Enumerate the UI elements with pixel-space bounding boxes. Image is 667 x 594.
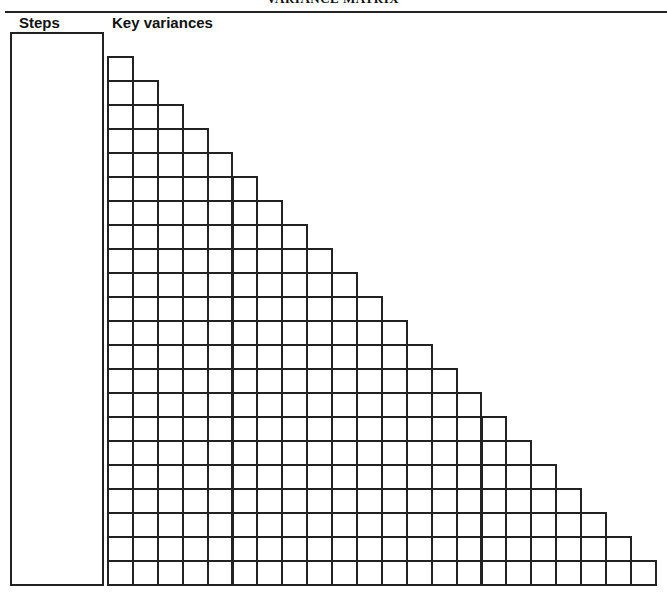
matrix-cell xyxy=(132,176,159,202)
matrix-cell xyxy=(256,512,283,538)
matrix-cell xyxy=(157,176,184,202)
matrix-cell xyxy=(207,488,234,514)
page-title: VARIANCE MATRIX xyxy=(0,0,666,7)
matrix-cell xyxy=(182,296,209,322)
matrix-cell xyxy=(157,416,184,442)
matrix-cell xyxy=(306,320,333,346)
matrix-cell xyxy=(132,440,159,466)
matrix-cell xyxy=(132,152,159,178)
matrix-cell xyxy=(505,512,532,538)
matrix-cell xyxy=(331,440,358,466)
matrix-cell xyxy=(456,464,483,490)
matrix-cell xyxy=(281,320,308,346)
matrix-cell xyxy=(132,128,159,154)
matrix-cell xyxy=(406,464,433,490)
matrix-cell xyxy=(431,512,458,538)
matrix-cell xyxy=(232,392,259,418)
matrix-cell xyxy=(555,512,582,538)
matrix-cell xyxy=(356,440,383,466)
matrix-cell xyxy=(530,512,557,538)
steps-header: Steps xyxy=(19,14,60,31)
matrix-cell xyxy=(481,512,508,538)
matrix-cell xyxy=(306,536,333,562)
matrix-cell xyxy=(157,392,184,418)
matrix-cell xyxy=(356,320,383,346)
matrix-cell xyxy=(232,560,259,586)
matrix-cell xyxy=(107,200,134,226)
matrix-cell xyxy=(107,560,134,586)
matrix-cell xyxy=(356,296,383,322)
matrix-cell xyxy=(132,368,159,394)
matrix-cell xyxy=(381,440,408,466)
matrix-cell xyxy=(107,80,134,106)
matrix-cell xyxy=(356,536,383,562)
matrix-cell xyxy=(256,200,283,226)
matrix-cell xyxy=(356,560,383,586)
matrix-cell xyxy=(431,560,458,586)
matrix-cell xyxy=(481,536,508,562)
matrix-cell xyxy=(580,536,607,562)
matrix-cell xyxy=(107,440,134,466)
matrix-cell xyxy=(281,224,308,250)
matrix-cell xyxy=(107,464,134,490)
matrix-cell xyxy=(157,104,184,130)
matrix-cell xyxy=(132,488,159,514)
matrix-cell xyxy=(157,248,184,274)
matrix-cell xyxy=(207,512,234,538)
matrix-cell xyxy=(207,296,234,322)
matrix-cell xyxy=(605,536,632,562)
matrix-cell xyxy=(157,128,184,154)
matrix-cell xyxy=(182,512,209,538)
matrix-cell xyxy=(431,536,458,562)
matrix-cell xyxy=(306,416,333,442)
matrix-cell xyxy=(431,440,458,466)
matrix-cell xyxy=(406,368,433,394)
matrix-cell xyxy=(132,248,159,274)
matrix-cell xyxy=(182,320,209,346)
matrix-cell xyxy=(107,56,134,82)
matrix-cell xyxy=(431,368,458,394)
matrix-cell xyxy=(107,320,134,346)
matrix-cell xyxy=(207,560,234,586)
matrix-cell xyxy=(306,392,333,418)
matrix-cell xyxy=(132,104,159,130)
matrix-cell xyxy=(256,536,283,562)
matrix-cell xyxy=(132,200,159,226)
matrix-cell xyxy=(456,416,483,442)
matrix-cell xyxy=(132,392,159,418)
matrix-cell xyxy=(207,368,234,394)
matrix-cell xyxy=(381,560,408,586)
matrix-cell xyxy=(381,392,408,418)
matrix-cell xyxy=(406,392,433,418)
matrix-cell xyxy=(331,560,358,586)
matrix-cell xyxy=(107,224,134,250)
matrix-cell xyxy=(481,440,508,466)
matrix-cell xyxy=(157,464,184,490)
matrix-cell xyxy=(306,296,333,322)
matrix-cell xyxy=(381,512,408,538)
matrix-cell xyxy=(182,464,209,490)
matrix-cell xyxy=(157,320,184,346)
matrix-cell xyxy=(107,536,134,562)
matrix-cell xyxy=(182,488,209,514)
matrix-cell xyxy=(182,536,209,562)
matrix-cell xyxy=(530,488,557,514)
matrix-cell xyxy=(356,392,383,418)
matrix-cell xyxy=(331,368,358,394)
matrix-cell xyxy=(207,200,234,226)
matrix-cell xyxy=(207,344,234,370)
matrix-cell xyxy=(481,488,508,514)
matrix-cell xyxy=(207,440,234,466)
matrix-cell xyxy=(555,488,582,514)
matrix-cell xyxy=(157,344,184,370)
matrix-cell xyxy=(356,416,383,442)
matrix-cell xyxy=(381,488,408,514)
matrix-cell xyxy=(306,560,333,586)
matrix-cell xyxy=(331,344,358,370)
matrix-cell xyxy=(157,224,184,250)
matrix-cell xyxy=(232,320,259,346)
matrix-cell xyxy=(107,248,134,274)
matrix-cell xyxy=(605,560,632,586)
matrix-cell xyxy=(207,536,234,562)
matrix-cell xyxy=(406,344,433,370)
